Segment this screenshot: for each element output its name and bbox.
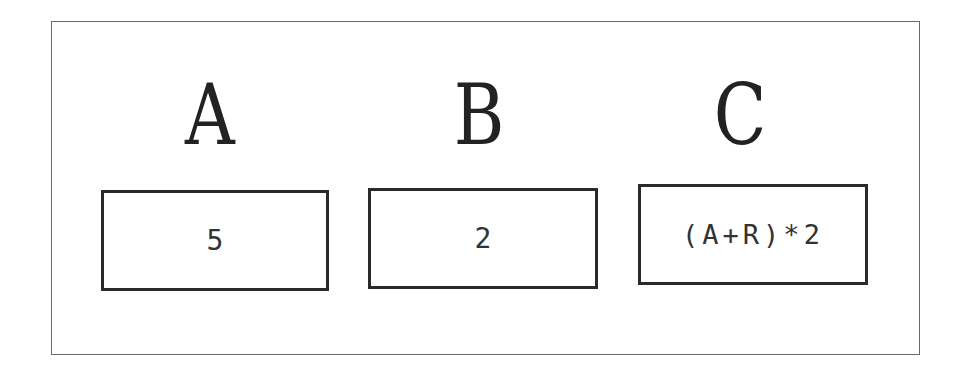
column-header-a: A xyxy=(153,70,268,160)
column-header-c: C xyxy=(683,70,798,160)
cell-a-value[interactable]: 5 xyxy=(101,190,329,291)
cell-c-formula[interactable]: (A+R)*2 xyxy=(638,184,868,285)
cell-b-text: 2 xyxy=(475,222,492,255)
cell-b-value[interactable]: 2 xyxy=(368,188,598,289)
cell-c-text: (A+R)*2 xyxy=(682,219,824,250)
column-header-b: B xyxy=(422,70,537,160)
cell-a-text: 5 xyxy=(207,224,224,257)
